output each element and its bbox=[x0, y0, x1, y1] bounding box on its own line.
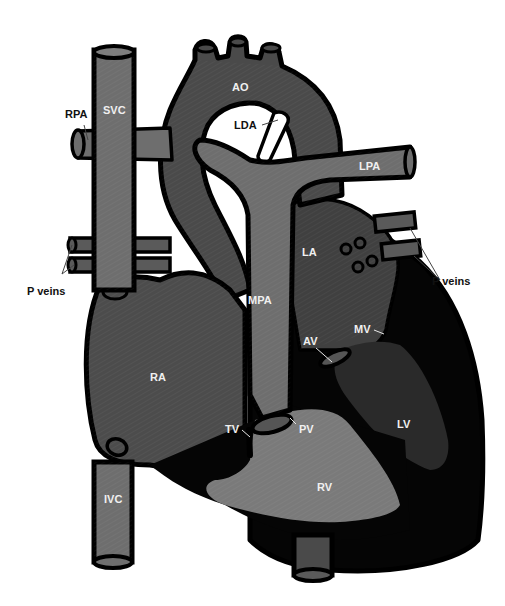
label-rpa: RPA bbox=[65, 108, 87, 120]
label-lv: LV bbox=[397, 418, 411, 430]
label-lda: LDA bbox=[234, 119, 257, 131]
tricuspid-valve-leaflet bbox=[249, 430, 250, 455]
heart-anatomy-diagram: AO LDA RPA SVC LPA LA P veins P veins MP… bbox=[0, 0, 505, 606]
inferior-vena-cava bbox=[94, 462, 132, 568]
label-p-veins-left: P veins bbox=[27, 285, 65, 297]
label-ao: AO bbox=[232, 81, 249, 93]
label-lpa: LPA bbox=[359, 160, 380, 172]
label-svc: SVC bbox=[103, 104, 126, 116]
label-ivc: IVC bbox=[104, 493, 122, 505]
superior-vena-cava bbox=[94, 46, 134, 290]
label-p-veins-right: P veins bbox=[432, 275, 470, 287]
label-rv: RV bbox=[317, 481, 333, 493]
label-av: AV bbox=[303, 335, 318, 347]
label-tv: TV bbox=[225, 423, 240, 435]
label-la: LA bbox=[302, 246, 317, 258]
ductus-arteriosus bbox=[258, 112, 288, 162]
label-ra: RA bbox=[150, 371, 166, 383]
label-pv: PV bbox=[299, 423, 314, 435]
descending-aorta bbox=[294, 535, 332, 581]
label-mv: MV bbox=[354, 323, 371, 335]
label-mpa: MPA bbox=[248, 294, 272, 306]
